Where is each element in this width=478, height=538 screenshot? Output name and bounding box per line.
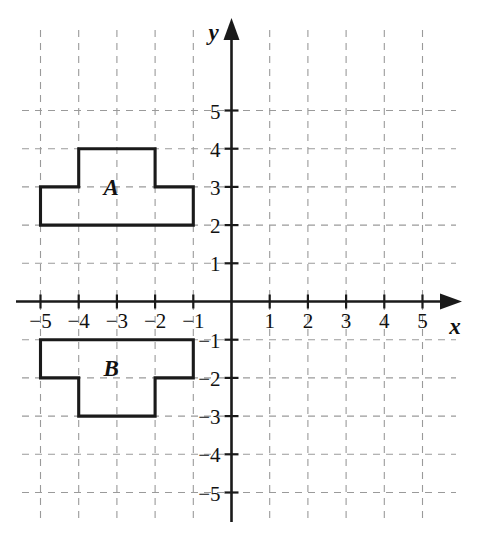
y-tick-label: −4 (198, 443, 221, 467)
figure-background (0, 0, 478, 538)
shape-label-b: B (102, 356, 118, 381)
y-tick-label: −3 (198, 405, 220, 429)
y-tick-label: 4 (210, 138, 221, 162)
x-axis-name-label: x (448, 314, 461, 339)
y-tick-label: −1 (198, 329, 220, 353)
x-tick-label: −2 (144, 309, 166, 333)
y-tick-label: 5 (210, 100, 221, 124)
coordinate-grid-svg: −5−4−3−2−112345−5−4−3−2−112345 AB xy (0, 0, 478, 538)
y-tick-label: 2 (210, 214, 221, 238)
shape-label-a: A (101, 175, 118, 200)
x-tick-label: −4 (68, 309, 91, 333)
coordinate-plane-figure: −5−4−3−2−112345−5−4−3−2−112345 AB xy (0, 0, 478, 538)
x-tick-label: −5 (29, 309, 51, 333)
x-tick-label: 2 (303, 309, 314, 333)
y-tick-label: −5 (198, 482, 220, 506)
x-tick-label: 4 (379, 309, 390, 333)
x-tick-label: −3 (106, 309, 128, 333)
y-tick-label: 1 (210, 252, 221, 276)
y-tick-label: 3 (210, 176, 221, 200)
x-tick-label: 1 (264, 309, 275, 333)
y-axis-name-label: y (205, 20, 219, 45)
x-tick-label: 3 (341, 309, 352, 333)
x-tick-label: 5 (417, 309, 428, 333)
y-tick-label: −2 (198, 367, 220, 391)
